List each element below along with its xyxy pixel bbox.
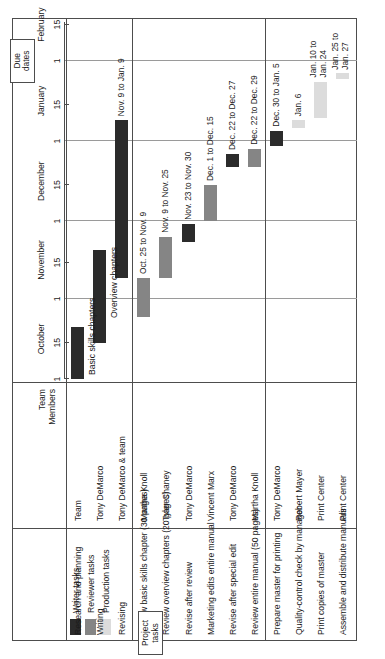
gantt-bar-9[interactable] <box>270 131 283 147</box>
annotation-basic-skills-chapters: Basic skills chapters <box>87 298 97 375</box>
task-name-1: Writing <box>96 608 105 635</box>
gantt-bar-10[interactable] <box>292 120 305 128</box>
gantt-bar-0[interactable] <box>71 327 84 379</box>
task-members-7: Tony DeMarco <box>229 466 238 521</box>
legend-label-2: Production tasks <box>101 549 111 613</box>
due-dates-line-2: dates <box>22 44 31 78</box>
bar-date-label-3: Oct. 25 to Nov. 9 <box>139 212 147 274</box>
month-label-february: February <box>36 0 46 70</box>
task-members-0: Team <box>74 500 83 521</box>
month-label-october: October <box>36 294 46 384</box>
axis-baseline <box>64 22 65 379</box>
month-gridline-november <box>64 298 357 299</box>
bar-date-label-8: Dec. 22 to Dec. 29 <box>250 75 258 144</box>
bar-date-label-7: Dec. 22 to Dec. 27 <box>228 81 236 150</box>
bar-date-label-12-line-2: Jan. 27 <box>341 33 351 70</box>
project-tasks-line-2: tasks <box>151 616 160 650</box>
annotation-overview-chapters: Overview chapters <box>109 247 119 318</box>
gantt-bar-11[interactable] <box>314 82 327 118</box>
column-separator-1 <box>13 382 356 383</box>
task-name-8: Review entire manual (50 pages) <box>251 509 260 635</box>
task-members-5: Tony DeMarco <box>185 466 194 521</box>
gantt-bar-7[interactable] <box>226 154 239 167</box>
bar-date-label-11: Jan. 10 toJan. 24 <box>309 41 328 78</box>
members-header-line-2: Members <box>48 389 58 481</box>
task-members-3: Martha Knoll <box>140 473 149 521</box>
rotated-figure-wrapper: Writing/Review Schedule: Software User's… <box>0 0 385 659</box>
task-members-2: Tony DeMarco & team <box>118 436 127 521</box>
task-name-2: Revising <box>118 602 127 635</box>
project-tasks-callout: Project tasks <box>138 611 163 655</box>
tick-label-december-15: 15 <box>52 171 62 199</box>
bar-date-label-11-line-2: Jan. 24 <box>319 41 329 78</box>
due-dates-callout: Due dates <box>10 39 35 83</box>
task-members-12: Print Center <box>339 475 348 521</box>
tick-label-february-15: 15 <box>52 11 62 39</box>
task-members-10: Robert Mayer <box>295 469 304 521</box>
gantt-bar-12[interactable] <box>336 73 349 79</box>
gantt-bar-5[interactable] <box>182 224 195 242</box>
task-members-6: Vincent Marx <box>207 471 216 521</box>
gantt-chart-figure: Writing/Review Schedule: Software User's… <box>0 0 385 659</box>
gantt-bar-4[interactable] <box>159 237 172 278</box>
task-name-6: Marketing edits entire manual <box>207 522 216 635</box>
legend-label-1: Reviewer tasks <box>86 555 96 613</box>
bar-date-label-12: Jan. 25 toJan. 27 <box>331 33 350 70</box>
task-name-10: Quality-control check by manager <box>295 507 304 635</box>
gantt-bar-3[interactable] <box>137 278 150 317</box>
bar-date-label-9: Dec. 30 to Jan. 5 <box>272 63 280 126</box>
bar-date-label-5: Nov. 23 to Nov. 30 <box>184 152 192 220</box>
tick-label-october-1: 1 <box>52 365 62 393</box>
task-name-9: Prepare master for printing <box>273 533 282 635</box>
tick-label-january-1: 1 <box>52 127 62 155</box>
task-name-5: Revise after review <box>185 562 194 635</box>
task-members-11: Print Center <box>317 475 326 521</box>
group-separator-0 <box>132 19 133 640</box>
task-name-11: Print copies of master <box>317 552 326 635</box>
task-members-9: Tony DeMarco <box>273 466 282 521</box>
task-members-8: Martha Knoll <box>251 473 260 521</box>
tick-label-november-1: 1 <box>52 285 62 313</box>
gantt-bar-8[interactable] <box>248 149 261 167</box>
month-label-december: December <box>36 136 46 226</box>
bar-date-label-10: Jan. 6 <box>294 93 302 116</box>
task-members-4: Tyler Chaney <box>162 470 171 521</box>
tick-label-november-15: 15 <box>52 249 62 277</box>
tick-label-january-15: 15 <box>52 91 62 119</box>
task-name-12: Assemble and distribute manuals <box>339 508 348 635</box>
bar-date-label-2: Nov. 9 to Jan. 9 <box>117 58 125 116</box>
group-separator-1 <box>265 19 266 640</box>
task-members-1: Tony DeMarco <box>96 466 105 521</box>
bar-date-label-4: Nov. 9 to Nov. 25 <box>161 169 169 232</box>
tick-label-october-15: 15 <box>52 329 62 357</box>
gantt-bar-6[interactable] <box>204 185 217 221</box>
column-separator-0 <box>13 528 356 529</box>
members-column-header: TeamMembers <box>38 389 58 481</box>
task-name-7: Revise after special edit <box>229 544 238 635</box>
month-label-november: November <box>36 215 46 305</box>
tick-label-february-1: 1 <box>52 47 62 75</box>
bar-date-label-6: Dec. 1 to Dec. 15 <box>206 116 214 181</box>
tick-label-december-1: 1 <box>52 207 62 235</box>
task-name-0: Research and planning <box>74 547 83 635</box>
header-separator <box>66 19 67 640</box>
